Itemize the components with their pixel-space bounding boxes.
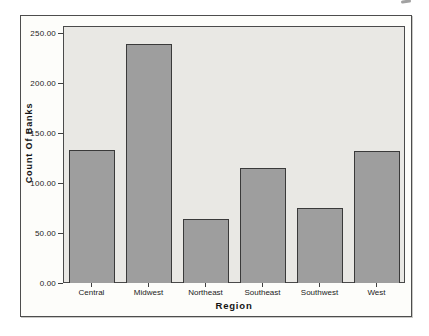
x-tick-label: West <box>342 288 412 297</box>
bar-southwest <box>297 208 343 283</box>
x-tick-mark <box>319 283 320 287</box>
y-axis-title: Count Of Banks <box>24 103 34 184</box>
bar-central <box>69 150 115 283</box>
bar-midwest <box>126 44 172 283</box>
y-tick-mark <box>58 183 63 184</box>
y-tick-label: 200.00 <box>22 79 56 88</box>
y-tick-mark <box>58 233 63 234</box>
y-tick-label: 50.00 <box>22 229 56 238</box>
x-axis-title: Region <box>63 300 405 311</box>
y-tick-mark <box>58 283 63 284</box>
bar-west <box>354 151 400 283</box>
y-tick-mark <box>58 83 63 84</box>
y-tick-label: 0.00 <box>22 279 56 288</box>
y-tick-label: 250.00 <box>22 29 56 38</box>
scan-artifact-mark <box>401 0 411 4</box>
x-tick-mark <box>148 283 149 287</box>
x-tick-mark <box>376 283 377 287</box>
x-tick-mark <box>91 283 92 287</box>
page: { "chart_data": { "type": "bar", "title"… <box>0 0 429 336</box>
x-tick-mark <box>205 283 206 287</box>
bar-southeast <box>240 168 286 283</box>
y-tick-mark <box>58 133 63 134</box>
y-tick-mark <box>58 33 63 34</box>
x-tick-mark <box>262 283 263 287</box>
bar-northeast <box>183 219 229 283</box>
